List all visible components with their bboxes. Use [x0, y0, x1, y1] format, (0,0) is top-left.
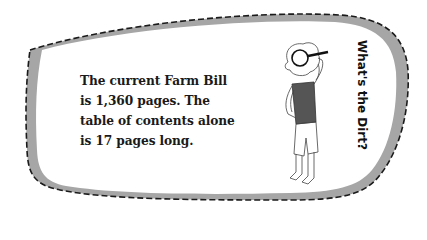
sidebar-title: What's the Dirt? [352, 40, 372, 150]
callout-line: is 1,360 pages. The [80, 91, 270, 111]
callout-line: is 17 pages long. [80, 131, 270, 151]
character-illustration [278, 40, 358, 190]
callout-line: table of contents alone [80, 111, 270, 131]
callout-line: The current Farm Bill [80, 71, 270, 91]
sidebar-title-text: What's the Dirt? [355, 40, 369, 150]
callout-text: The current Farm Bill is 1,360 pages. Th… [80, 71, 270, 151]
